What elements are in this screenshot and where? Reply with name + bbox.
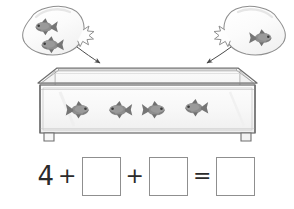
equation-known-value: 4 bbox=[37, 163, 56, 189]
equation-blank-box-1[interactable] bbox=[82, 157, 121, 196]
equation-plus-operator-2: + bbox=[123, 165, 147, 187]
fish-bag-left bbox=[23, 6, 94, 55]
aquarium-tank bbox=[38, 68, 257, 141]
equation-answer-box[interactable] bbox=[216, 157, 255, 196]
equation-plus-operator-1: + bbox=[55, 165, 79, 187]
arrow-left-bag-to-tank bbox=[77, 47, 100, 63]
worksheet-canvas: 4 + + = bbox=[0, 0, 294, 209]
equation-equals-operator: = bbox=[190, 165, 214, 187]
fish-bag-right bbox=[214, 6, 285, 55]
equation-blank-box-2[interactable] bbox=[149, 157, 188, 196]
arrow-right-bag-to-tank bbox=[207, 47, 231, 63]
addition-equation: 4 + + = bbox=[0, 150, 294, 202]
